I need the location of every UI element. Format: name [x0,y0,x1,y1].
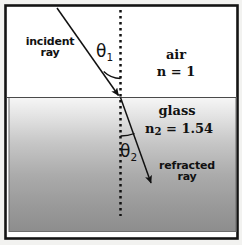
theta2-label: θ2 [120,143,146,160]
refraction-diagram: incident ray air n = 1 glass n2 = 1.54 θ… [0,0,242,245]
theta1-label: θ1 [96,43,122,60]
theta2-subscript: 2 [130,151,137,163]
theta1-symbol: θ [96,41,106,61]
refracted-ray-label: refracted ray [148,160,226,182]
air-refractive-index-label: n = 1 [144,65,208,78]
glass-index-subscript: 2 [154,125,161,137]
incident-ray-label: incident ray [14,36,86,58]
incident-ray-label-line2: ray [40,46,59,59]
glass-medium-label: glass [148,104,206,117]
glass-index-value: = 1.54 [161,121,213,136]
refracted-ray-label-line2: ray [177,170,196,183]
theta2-symbol: θ [120,141,130,161]
glass-refractive-index-label: n2 = 1.54 [138,122,220,135]
glass-index-symbol: n [145,121,154,136]
theta1-subscript: 1 [106,51,113,63]
air-medium-label: air [148,48,204,61]
